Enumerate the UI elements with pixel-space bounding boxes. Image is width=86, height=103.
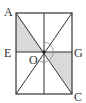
- label-E: E: [4, 46, 11, 60]
- label-A: A: [4, 5, 13, 19]
- label-C: C: [74, 90, 82, 103]
- center-point-O: [42, 50, 45, 53]
- label-O: O: [29, 53, 38, 67]
- geometry-diagram: A E O G C: [0, 0, 86, 103]
- label-G: G: [74, 46, 83, 60]
